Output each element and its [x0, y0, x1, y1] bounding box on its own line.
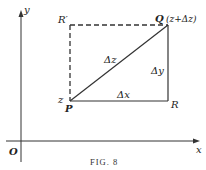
y-axis-arrow-icon [19, 10, 24, 17]
x-axis-label: x [196, 144, 202, 155]
figure-caption: FIG. 8 [90, 157, 118, 167]
axes [6, 10, 200, 162]
x-axis-arrow-icon [193, 139, 200, 144]
point-q-label: Q [155, 13, 164, 24]
segment-pq-label: Δz [103, 54, 117, 65]
point-q-annotation: (z+Δz) [166, 14, 197, 24]
point-p-annotation: z [57, 94, 64, 105]
origin-label: O [9, 146, 18, 157]
segment-pr-label: Δx [116, 89, 130, 100]
point-p-label: P [64, 103, 73, 114]
y-axis-label: y [23, 4, 30, 15]
point-r-label: R [170, 99, 179, 110]
complex-increment-diagram: y x O R′ Q (z+Δz) z P R Δz Δy Δx FIG. 8 [0, 0, 206, 170]
point-rprime-label: R′ [57, 14, 69, 25]
segment-rq-label: Δy [150, 65, 164, 76]
